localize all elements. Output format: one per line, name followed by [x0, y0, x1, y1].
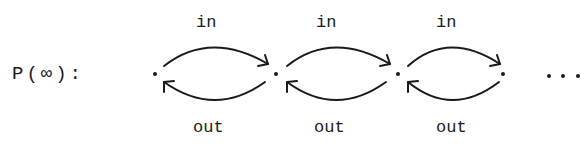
node-3	[501, 72, 505, 76]
arrow-in-3	[408, 47, 500, 66]
arrow-out-2	[287, 82, 386, 100]
ellipsis-icon	[547, 74, 580, 78]
node-2	[396, 72, 400, 76]
arrow-out-1	[164, 82, 265, 100]
state-diagram	[0, 0, 588, 148]
node-0	[153, 72, 157, 76]
nodes	[153, 72, 505, 76]
arrow-out-3	[408, 82, 499, 100]
arrow-in-1	[164, 47, 268, 66]
arrow-in-2	[287, 47, 390, 66]
node-1	[274, 72, 278, 76]
